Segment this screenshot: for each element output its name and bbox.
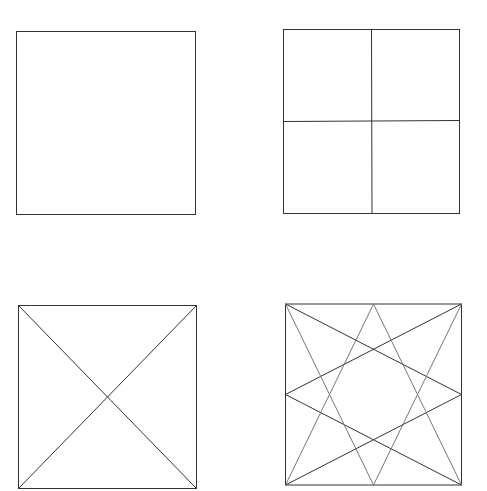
quartered-square (284, 30, 460, 214)
star-square (286, 304, 462, 485)
plain-square (17, 32, 196, 215)
diagonal-square (19, 306, 197, 489)
figure-canvas (0, 0, 487, 491)
